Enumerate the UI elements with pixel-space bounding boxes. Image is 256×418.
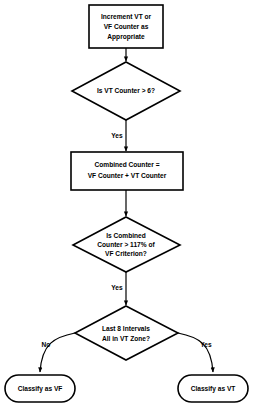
node-vt-counter-check-line1: Is VT Counter > 6? bbox=[97, 87, 155, 94]
node-intervals-check-line2: All in VT Zone? bbox=[102, 335, 150, 342]
flowchart-diagram: Increment VT or VF Counter as Appropriat… bbox=[0, 0, 256, 418]
node-classify-vt-label: Classify as VT bbox=[191, 385, 236, 393]
node-intervals-check-line1: Last 8 Intervals bbox=[102, 325, 150, 332]
edge-label-intervals-yes: Yes bbox=[200, 341, 212, 348]
node-combined-counter-line1: Combined Counter = bbox=[94, 161, 159, 168]
node-classify-vf-label: Classify as VF bbox=[18, 385, 63, 393]
node-combined-check-line2: Counter > 117% of bbox=[97, 241, 155, 248]
flowchart-canvas: Increment VT or VF Counter as Appropriat… bbox=[0, 0, 256, 418]
connector-intervals-yes-to-classify-vt bbox=[178, 333, 213, 372]
edge-label-intervals-no: No bbox=[42, 341, 51, 348]
node-increment-counter-line1: Increment VT or bbox=[101, 13, 152, 20]
node-increment-counter-line2: VF Counter as bbox=[104, 23, 149, 30]
node-increment-counter-line3: Appropriate bbox=[107, 33, 145, 41]
node-combined-counter-line2: VF Counter + VT Counter bbox=[88, 172, 167, 179]
connector-intervals-no-to-classify-vf bbox=[40, 333, 75, 372]
node-intervals-check bbox=[75, 306, 178, 360]
edge-label-combined-yes: Yes bbox=[111, 284, 123, 291]
edge-label-vt-counter-yes: Yes bbox=[111, 132, 123, 139]
node-combined-check-line1: Is Combined bbox=[106, 232, 146, 239]
node-combined-check-line3: VF Criterion? bbox=[105, 250, 147, 257]
